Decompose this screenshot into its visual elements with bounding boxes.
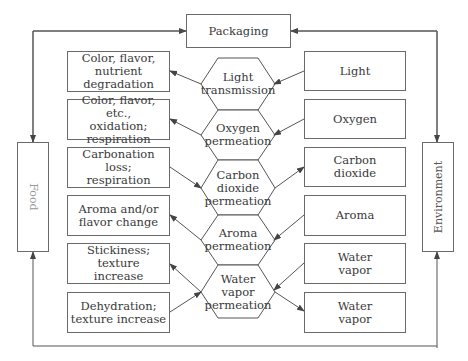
factor-line: Water xyxy=(338,251,373,264)
effect-box-co2: Carbonation loss;respiration xyxy=(67,147,170,188)
effect-line: flavor change xyxy=(78,216,158,229)
hex-line: transmission xyxy=(201,84,276,97)
hex-label-light: Light transmission xyxy=(201,71,276,97)
factor-box-water-vapor-1: Watervapor xyxy=(304,243,406,284)
factor-line: Oxygen xyxy=(333,113,377,126)
hex-label-water-vapor: Water vapor permeation xyxy=(205,273,272,312)
food-box: Food xyxy=(17,142,49,252)
hex-label-aroma: Aroma permeation xyxy=(205,227,272,253)
factor-line: Water xyxy=(338,300,373,313)
factor-box-oxygen: Oxygen xyxy=(304,99,406,139)
hex-line: permeation xyxy=(205,195,272,208)
effect-box-light: Color, flavor,nutrient degradation xyxy=(67,51,170,92)
effect-line: respiration xyxy=(68,174,169,187)
hex-label-co2: Carbon dioxide permeation xyxy=(205,169,272,208)
factor-line: dioxide xyxy=(334,167,377,180)
effect-line: Aroma and/or xyxy=(78,203,158,216)
hex-label-oxygen: Oxygen permeation xyxy=(205,122,272,148)
effect-line: Stickiness; texture xyxy=(68,244,169,270)
effect-box-dehydration: Dehydration;texture increase xyxy=(67,292,170,333)
effect-line: texture increase xyxy=(71,313,166,326)
effect-line: Carbonation loss; xyxy=(68,148,169,174)
hex-line: permeation xyxy=(205,240,272,253)
effect-line: oxidation; respiration xyxy=(68,120,169,146)
food-label: Food xyxy=(27,183,40,210)
effect-line: Color, flavor, etc., xyxy=(68,94,169,120)
factor-line: Aroma xyxy=(336,209,375,222)
packaging-label: Packaging xyxy=(208,25,268,38)
effect-line: increase xyxy=(68,270,169,283)
factor-line: vapor xyxy=(338,313,373,326)
factor-box-light: Light xyxy=(304,51,406,91)
environment-box: Environment xyxy=(422,142,454,252)
factor-box-co2: Carbondioxide xyxy=(304,147,406,187)
effect-box-stickiness: Stickiness; textureincrease xyxy=(67,243,170,284)
packaging-box: Packaging xyxy=(186,14,291,48)
effect-box-aroma: Aroma and/orflavor change xyxy=(67,195,170,236)
effect-line: Dehydration; xyxy=(71,300,166,313)
effect-box-oxygen: Color, flavor, etc.,oxidation; respirati… xyxy=(67,99,170,140)
factor-box-water-vapor-2: Watervapor xyxy=(304,292,406,333)
hex-line: permeation xyxy=(205,135,272,148)
environment-label: Environment xyxy=(432,161,445,233)
hex-line: permeation xyxy=(205,299,272,312)
factor-line: vapor xyxy=(338,264,373,277)
factor-line: Light xyxy=(340,65,371,78)
effect-line: nutrient degradation xyxy=(68,65,169,91)
factor-box-aroma: Aroma xyxy=(304,195,406,236)
